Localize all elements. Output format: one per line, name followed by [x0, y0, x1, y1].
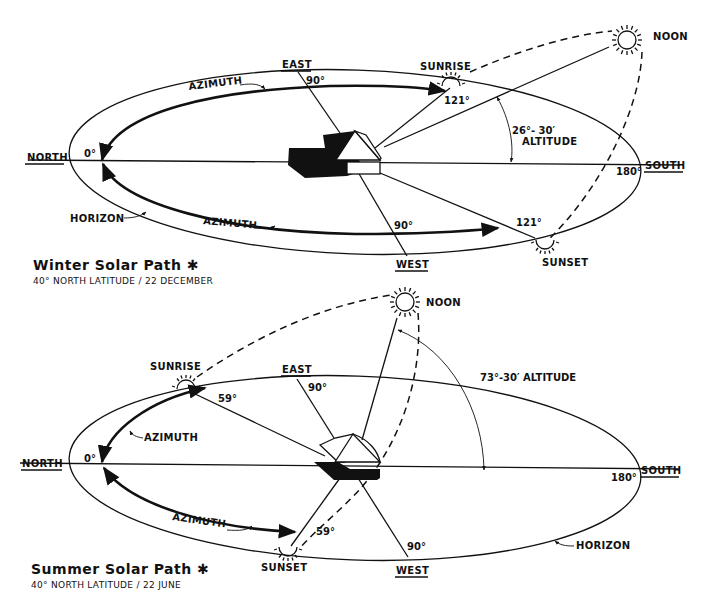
summer-noon-label: NOON [426, 297, 461, 308]
summer-sunrise-label: SUNRISE [150, 361, 201, 372]
winter-azimuth-bottom-label: AZIMUTH [203, 215, 258, 231]
winter-house-icon [288, 131, 381, 178]
winter-sunset-azimuth: 121° [516, 217, 542, 228]
winter-altitude-arc [497, 97, 512, 162]
winter-solar-path: EAST 90° NORTH 0° SOUTH 180° WEST 90° SU… [25, 25, 688, 286]
summer-west-line [358, 478, 408, 557]
summer-sunset-azimuth: 59° [316, 526, 335, 537]
winter-east-angle: 90° [306, 75, 325, 86]
summer-east-label: EAST [282, 364, 312, 375]
summer-noon-sun-icon [390, 287, 420, 317]
summer-north-south-axis [20, 463, 680, 469]
summer-sunset-label: SUNSET [261, 562, 307, 573]
winter-noon-label: NOON [653, 31, 688, 42]
summer-sunrise-ray [193, 393, 325, 456]
winter-west-line [358, 172, 407, 256]
summer-north-label: NORTH [22, 458, 63, 469]
winter-azimuth-top-label: AZIMUTH [188, 74, 243, 92]
summer-house-icon [314, 434, 380, 480]
winter-sunset-sun-icon [531, 240, 559, 254]
summer-altitude-label: 73°-30′ ALTITUDE [480, 372, 576, 383]
winter-west-label: WEST [396, 259, 429, 270]
summer-subtitle: 40° NORTH LATITUDE / 22 JUNE [31, 580, 181, 590]
summer-noon-ray [362, 318, 397, 440]
winter-horizon-label: HORIZON [70, 213, 125, 224]
summer-horizon-pointer [555, 541, 574, 546]
summer-north-angle: 0° [84, 453, 96, 464]
summer-horizon-label: HORIZON [576, 540, 631, 551]
winter-sunrise-azimuth: 121° [444, 95, 470, 106]
winter-north-label: NORTH [27, 152, 68, 163]
winter-noon-sun-icon [612, 25, 642, 55]
winter-title: Winter Solar Path ✱ [33, 257, 199, 273]
summer-azimuth-top-pointer [130, 431, 143, 438]
winter-north-angle: 0° [84, 148, 96, 159]
winter-south-angle: 180° [616, 166, 642, 177]
summer-azimuth-top-label: AZIMUTH [144, 432, 198, 443]
summer-azimuth-arc-top [102, 388, 205, 462]
winter-altitude-value: 26°- 30′ [512, 125, 555, 136]
summer-altitude-arc [398, 330, 484, 470]
summer-east-angle: 90° [308, 382, 327, 393]
winter-south-label: SOUTH [645, 160, 686, 171]
winter-azimuth-top-pointer [240, 84, 265, 89]
summer-sunrise-azimuth: 59° [218, 393, 237, 404]
winter-azimuth-arc-top [102, 86, 445, 160]
summer-west-label: WEST [396, 565, 429, 576]
winter-noon-ray [384, 47, 609, 147]
summer-title: Summer Solar Path ✱ [31, 561, 209, 577]
summer-south-label: SOUTH [641, 465, 682, 476]
winter-sunrise-sun-icon [437, 72, 465, 86]
summer-south-angle: 180° [611, 472, 637, 483]
winter-sunset-label: SUNSET [542, 257, 588, 268]
winter-sunrise-label: SUNRISE [420, 61, 471, 72]
winter-subtitle: 40° NORTH LATITUDE / 22 DECEMBER [33, 276, 213, 286]
winter-west-angle: 90° [394, 220, 413, 231]
summer-azimuth-bottom-label: AZIMUTH [172, 511, 227, 529]
summer-west-angle: 90° [407, 541, 426, 552]
winter-altitude-word: ALTITUDE [522, 136, 577, 147]
winter-east-label: EAST [282, 59, 312, 70]
winter-sunrise-ray [375, 88, 450, 148]
winter-sun-path-morning [470, 31, 612, 72]
summer-solar-path: EAST 90° NORTH 0° SOUTH 180° WEST 90° SU… [20, 287, 682, 590]
solar-path-diagram: EAST 90° NORTH 0° SOUTH 180° WEST 90° SU… [0, 0, 708, 610]
summer-sun-path-afternoon [300, 313, 419, 548]
